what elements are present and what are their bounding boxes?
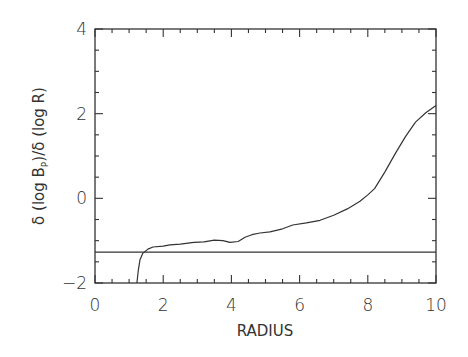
y-tick-labels: −2024 <box>62 19 87 293</box>
y-tick-label: 2 <box>76 104 87 124</box>
series-profile <box>137 106 436 283</box>
plot-frame <box>95 29 436 283</box>
x-tick-label: 4 <box>226 295 237 315</box>
y-axis-label: δ (log BP)/δ (log R) <box>30 87 50 225</box>
y-label-suffix: )/δ (log R) <box>30 87 48 162</box>
y-tick-label: −2 <box>62 273 87 293</box>
x-tick-labels: 0246810 <box>90 295 447 315</box>
x-tick-label: 8 <box>362 295 373 315</box>
y-tick-label: 0 <box>76 188 87 208</box>
x-tick-label: 10 <box>425 295 447 315</box>
y-label-prefix: δ (log B <box>30 167 48 225</box>
x-axis-label: RADIUS <box>237 322 294 340</box>
x-tick-label: 6 <box>294 295 305 315</box>
x-tick-label: 0 <box>90 295 101 315</box>
y-tick-label: 4 <box>76 19 87 39</box>
data-series <box>95 106 436 283</box>
axis-ticks <box>95 29 436 283</box>
x-tick-label: 2 <box>158 295 169 315</box>
line-chart: 0246810 −2024 RADIUS δ (log BP)/δ (log R… <box>0 0 468 357</box>
plot-border <box>95 29 436 283</box>
